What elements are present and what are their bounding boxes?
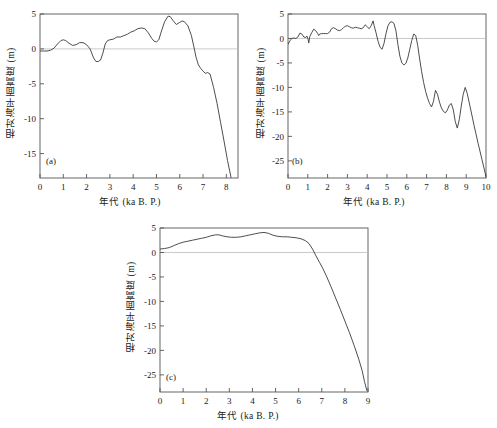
panel-a-x-axis-title: 年代 (ka B. P.) [30,194,230,208]
svg-text:1: 1 [61,182,66,192]
svg-text:4: 4 [131,182,136,192]
svg-text:-5: -5 [149,272,157,282]
svg-text:-25: -25 [272,156,284,166]
svg-text:-10: -10 [272,83,284,93]
svg-text:3: 3 [108,182,113,192]
svg-text:10: 10 [482,182,492,192]
svg-text:7: 7 [201,182,206,192]
svg-text:4: 4 [250,396,255,406]
svg-text:0: 0 [286,182,291,192]
panel-c-tag: (c) [166,372,176,382]
svg-text:1: 1 [306,182,311,192]
svg-text:2: 2 [325,182,330,192]
svg-text:7: 7 [424,182,429,192]
svg-text:2: 2 [84,182,89,192]
svg-text:4: 4 [365,182,370,192]
panel-c: 相对海平面高度 (m) 年代 (ka B. P.) (c) 0123456789… [120,210,385,428]
svg-text:0: 0 [280,34,285,44]
svg-text:0: 0 [38,182,43,192]
panel-c-y-axis-title: 相对海平面高度 (m) [124,232,138,382]
svg-text:-5: -5 [29,79,37,89]
svg-text:6: 6 [296,396,301,406]
figure-sea-level-curves: 相对海平面高度 (m) 年代 (ka B. P.) (a) 0123456785… [0,0,497,428]
panel-b-y-axis-title: 相对海平面高度 (m) [254,18,268,168]
svg-text:9: 9 [366,396,371,406]
panel-a-plot: 01234567850-5-10-15 [0,0,250,214]
svg-text:8: 8 [343,396,348,406]
panel-c-x-axis-title: 年代 (ka B. P.) [148,408,348,422]
svg-text:6: 6 [178,182,183,192]
svg-text:-10: -10 [144,297,156,307]
panel-a-tag: (a) [46,156,56,166]
svg-text:5: 5 [32,9,37,19]
panel-a: 相对海平面高度 (m) 年代 (ka B. P.) (a) 0123456785… [0,0,250,214]
svg-text:8: 8 [444,182,449,192]
svg-text:5: 5 [273,396,278,406]
svg-text:-25: -25 [144,370,156,380]
panel-b-plot: 01234567891050-5-10-15-20-25 [250,0,497,214]
svg-text:-10: -10 [24,114,36,124]
svg-text:0: 0 [158,396,163,406]
svg-text:8: 8 [224,182,229,192]
svg-text:0: 0 [152,248,157,258]
svg-text:7: 7 [320,396,325,406]
svg-text:5: 5 [385,182,390,192]
svg-text:5: 5 [154,182,159,192]
svg-text:-15: -15 [24,149,36,159]
svg-text:5: 5 [152,223,157,233]
svg-text:1: 1 [181,396,186,406]
svg-text:3: 3 [345,182,350,192]
svg-text:9: 9 [464,182,469,192]
svg-text:2: 2 [204,396,209,406]
svg-text:5: 5 [280,9,285,19]
panel-a-y-axis-title: 相对海平面高度 (m) [4,18,18,168]
svg-text:0: 0 [32,44,37,54]
panel-b-tag: (b) [292,156,303,166]
svg-text:6: 6 [405,182,410,192]
panel-b-x-axis-title: 年代 (ka B. P.) [274,194,474,208]
svg-text:-20: -20 [272,132,284,142]
svg-text:-20: -20 [144,346,156,356]
svg-text:-15: -15 [272,107,284,117]
svg-text:3: 3 [227,396,232,406]
svg-text:-15: -15 [144,321,156,331]
panel-b: 相对海平面高度 (m) 年代 (ka B. P.) (b) 0123456789… [250,0,497,214]
svg-text:-5: -5 [277,58,285,68]
panel-c-plot: 012345678950-5-10-15-20-25 [120,210,385,428]
